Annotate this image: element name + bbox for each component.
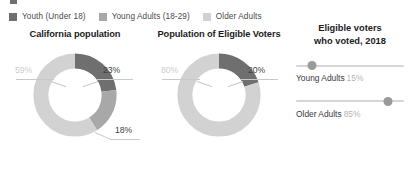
clipped-header-fragment	[8, 0, 68, 6]
side-panel-eligible-voters-who-voted: Eligible voters who voted, 2018 Young Ad…	[296, 22, 404, 118]
leader-line	[16, 79, 54, 80]
slider-handle[interactable]	[383, 97, 392, 106]
slider-label: Older Adults	[296, 109, 342, 119]
chart-title: Population of Eligible Voters	[146, 30, 292, 39]
slider-value: 15%	[347, 73, 364, 83]
slider-row-older-adults: Older Adults85%	[296, 97, 404, 118]
chart-panel-eligible-voters: Population of Eligible Voters 80% 20%	[146, 30, 292, 154]
legend: Youth (Under 18) Young Adults (18-29) Ol…	[9, 13, 262, 21]
side-panel-title-line1: Eligible voters	[296, 22, 404, 35]
square-swatch-icon	[99, 13, 107, 21]
donut-label-youth: 23%	[103, 66, 120, 75]
donut-chart-california-population: 59% 23% 18%	[7, 50, 143, 154]
slider-handle[interactable]	[308, 61, 317, 70]
donut-label-older-adults: 59%	[15, 66, 32, 75]
chart-panel-california-population: California population 59% 23% 18%	[4, 30, 146, 154]
slider-label: Young Adults	[296, 73, 345, 83]
side-panel-title-line2: who voted, 2018	[296, 35, 404, 48]
slider-caption: Older Adults85%	[296, 110, 404, 118]
slider-older-adults[interactable]	[296, 97, 404, 106]
leader-line	[96, 79, 133, 80]
side-panel-title: Eligible voters who voted, 2018	[296, 22, 404, 47]
legend-item-older-adults[interactable]: Older Adults	[203, 13, 262, 21]
legend-item-youth[interactable]: Youth (Under 18)	[9, 13, 86, 21]
leader-line	[110, 139, 140, 140]
leader-line	[241, 79, 278, 80]
legend-item-label: Young Adults (18-29)	[112, 13, 190, 21]
legend-item-label: Youth (Under 18)	[22, 13, 86, 21]
legend-item-label: Older Adults	[216, 13, 262, 21]
chart-title: California population	[4, 30, 146, 39]
donut-label-older-adults: 80%	[161, 66, 178, 75]
leader-line	[162, 79, 200, 80]
donut-svg	[174, 50, 264, 140]
donut-chart-eligible-voters: 80% 20%	[151, 50, 287, 154]
donut-svg	[30, 50, 120, 140]
square-swatch-icon	[9, 13, 17, 21]
clipped-square-icon	[10, 0, 17, 4]
slider-value: 85%	[344, 109, 361, 119]
legend-item-young-adults[interactable]: Young Adults (18-29)	[99, 13, 190, 21]
slider-young-adults[interactable]	[296, 61, 404, 70]
slider-row-young-adults: Young Adults15%	[296, 61, 404, 82]
donut-label-youth: 20%	[248, 66, 265, 75]
donut-label-young-adults: 18%	[115, 126, 132, 135]
slider-caption: Young Adults15%	[296, 74, 404, 82]
square-swatch-icon	[203, 13, 211, 21]
